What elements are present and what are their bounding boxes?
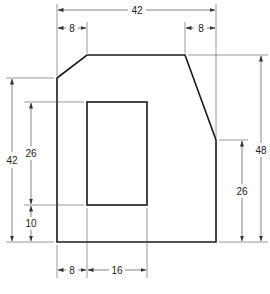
dim-left-height: 42 [6,79,18,241]
dim-right-chamfer: 8 [186,23,215,34]
svg-text:8: 8 [198,23,204,34]
dim-overall-height: 48 [255,56,267,241]
svg-text:8: 8 [69,265,75,276]
svg-text:42: 42 [131,5,143,16]
technical-drawing: 42 8 8 42 26 10 48 26 [0,0,270,294]
svg-text:26: 26 [236,186,248,197]
svg-text:16: 16 [111,265,123,276]
svg-text:48: 48 [255,145,267,156]
extension-lines [6,4,268,278]
svg-text:8: 8 [69,23,75,34]
dim-hole-left-offset: 8 [58,265,86,276]
svg-text:10: 10 [25,218,37,229]
dim-hole-width: 16 [88,265,146,276]
dim-hole-bottom-offset: 10 [25,206,37,241]
dim-left-chamfer: 8 [58,23,86,34]
rectangular-cutout [87,102,147,205]
dim-overall-width: 42 [58,3,215,16]
part-outline [57,55,216,242]
dim-right-vertical: 26 [236,141,248,241]
svg-text:26: 26 [25,148,37,159]
dim-hole-height: 26 [25,103,37,204]
svg-text:42: 42 [6,155,18,166]
